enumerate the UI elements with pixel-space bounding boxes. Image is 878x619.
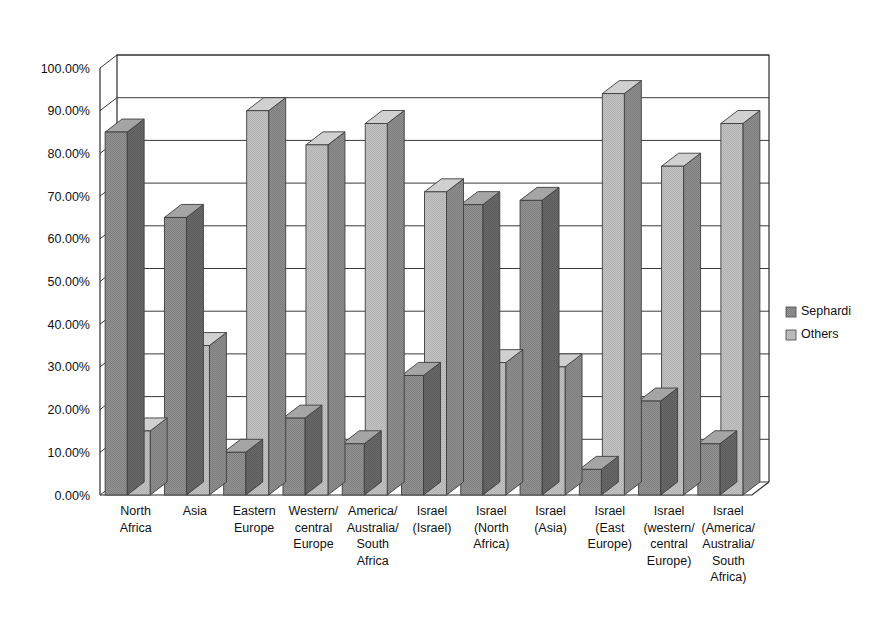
x-axis-category-label: Australia/: [347, 521, 400, 535]
bar-sephardi-1: [164, 204, 203, 495]
x-axis-category-label: Israel: [713, 504, 744, 518]
bar-front-face: [224, 452, 246, 495]
bar-series-group: [105, 81, 760, 495]
y-axis-tick-label: 30.00%: [48, 360, 90, 374]
bar-side-face: [387, 111, 404, 495]
bar-front-face: [520, 200, 542, 495]
y-axis-tick-label: 60.00%: [48, 232, 90, 246]
bar-front-face: [342, 444, 364, 495]
x-axis-category-label: (America/: [702, 521, 756, 535]
x-axis-category-label: Africa: [357, 554, 389, 568]
legend-swatch-icon: [786, 307, 796, 317]
x-axis-category-label: central: [650, 537, 688, 551]
x-axis-category-label: (Israel): [413, 521, 452, 535]
y-axis-tick-label: 10.00%: [48, 446, 90, 460]
legend-item-others[interactable]: Others: [786, 327, 839, 341]
gridline-connector: [100, 98, 117, 111]
bar-sephardi-9: [639, 388, 678, 495]
y-axis-tick-label: 20.00%: [48, 403, 90, 417]
bar-side-face: [305, 405, 322, 495]
bar-side-face: [661, 388, 678, 495]
legend-label: Sephardi: [801, 304, 851, 318]
bar-side-face: [186, 204, 203, 495]
bar-sephardi-0: [105, 119, 144, 495]
bar-front-face: [461, 205, 483, 495]
x-axis-category-label: Asia: [183, 504, 207, 518]
bar-front-face: [164, 217, 186, 495]
x-axis-category-label: South: [356, 537, 389, 551]
legend-item-sephardi[interactable]: Sephardi: [786, 304, 851, 318]
x-axis-category-label: (western/: [643, 521, 695, 535]
x-axis-category-label: North: [120, 504, 151, 518]
x-axis-category-label: (North: [474, 521, 509, 535]
bar-side-face: [269, 98, 286, 495]
bar-side-face: [328, 132, 345, 495]
x-axis-category-label: Africa): [710, 570, 746, 584]
bar-front-face: [247, 111, 269, 495]
y-axis-tick-label: 0.00%: [55, 489, 90, 503]
x-axis-category-label: Israel: [654, 504, 685, 518]
bar-others-2: [247, 98, 286, 495]
bar-sephardi-3: [283, 405, 322, 495]
x-axis-category-label: Israel: [535, 504, 566, 518]
bar-side-face: [483, 192, 500, 495]
bar-side-face: [127, 119, 144, 495]
bar-front-face: [402, 375, 424, 495]
legend-swatch-icon: [786, 330, 796, 340]
bar-front-face: [105, 132, 127, 495]
y-axis-tick-label: 50.00%: [48, 275, 90, 289]
x-axis-category-labels: NorthAfricaAsiaEasternEuropeWestern/cent…: [120, 504, 756, 584]
y-axis-tick-labels: 0.00%10.00%20.00%30.00%40.00%50.00%60.00…: [41, 62, 90, 503]
x-axis-category-label: Eastern: [233, 504, 276, 518]
bar-side-face: [743, 111, 760, 495]
bar-front-face: [639, 401, 661, 495]
bar-front-face: [579, 469, 601, 495]
x-axis-category-label: Africa: [120, 521, 152, 535]
x-axis-category-label: Europe): [647, 554, 691, 568]
bar-front-face: [698, 444, 720, 495]
bar-side-face: [209, 333, 226, 495]
legend-label: Others: [801, 327, 839, 341]
bar-front-face: [602, 94, 624, 495]
bar-sephardi-4: [342, 431, 381, 495]
bar-side-face: [624, 81, 641, 495]
y-axis-tick-label: 40.00%: [48, 318, 90, 332]
bar-others-8: [602, 81, 641, 495]
y-axis-tick-label: 80.00%: [48, 147, 90, 161]
bar-side-face: [424, 362, 441, 495]
bar-chart: 0.00%10.00%20.00%30.00%40.00%50.00%60.00…: [0, 0, 878, 619]
x-axis-category-label: Europe): [588, 537, 632, 551]
x-axis-category-label: America/: [348, 504, 398, 518]
x-axis-category-label: (East: [595, 521, 625, 535]
bar-side-face: [447, 179, 464, 495]
y-axis-tick-label: 90.00%: [48, 104, 90, 118]
bar-sephardi-10: [698, 431, 737, 495]
y-axis-tick-label: 100.00%: [41, 62, 90, 76]
x-axis-category-label: Western/: [289, 504, 339, 518]
x-axis-category-label: Israel: [417, 504, 448, 518]
gridline-connector: [100, 55, 117, 68]
x-axis-category-label: South: [712, 554, 745, 568]
bar-side-face: [506, 350, 523, 495]
x-axis-category-label: Israel: [595, 504, 626, 518]
bar-front-face: [283, 418, 305, 495]
x-axis-category-label: Europe: [293, 537, 333, 551]
y-axis-tick-label: 70.00%: [48, 190, 90, 204]
chart-legend: SephardiOthers: [786, 304, 851, 341]
bar-sephardi-5: [402, 362, 441, 495]
bar-sephardi-2: [224, 439, 263, 495]
x-axis-category-label: Europe: [234, 521, 274, 535]
bar-side-face: [565, 354, 582, 495]
x-axis-category-label: Africa): [473, 537, 509, 551]
chart-container: 0.00%10.00%20.00%30.00%40.00%50.00%60.00…: [0, 0, 878, 619]
x-axis-category-label: Israel: [476, 504, 507, 518]
bar-side-face: [684, 153, 701, 495]
bar-sephardi-7: [520, 187, 559, 495]
bar-sephardi-6: [461, 192, 500, 495]
x-axis-category-label: Australia/: [702, 537, 755, 551]
x-axis-category-label: (Asia): [534, 521, 567, 535]
x-axis-category-label: central: [295, 521, 333, 535]
bar-side-face: [542, 187, 559, 495]
